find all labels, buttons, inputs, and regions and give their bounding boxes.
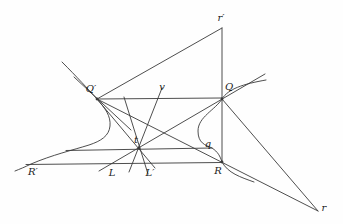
label-R: R — [213, 165, 222, 176]
figure-canvas: r′Q′QvtqR′LL′Rr — [0, 0, 343, 224]
geometry-diagram: r′Q′QvtqR′LL′Rr — [0, 0, 343, 224]
point-t — [138, 147, 141, 150]
point-Q-prime — [96, 98, 99, 101]
figure-background — [0, 0, 343, 224]
label-r-prime: r′ — [217, 12, 225, 23]
label-q: q — [205, 138, 211, 149]
label-Q-prime: Q′ — [86, 83, 97, 94]
point-R — [221, 161, 224, 164]
point-Q — [221, 98, 224, 101]
label-Q: Q — [225, 81, 233, 92]
label-L: L — [108, 167, 116, 178]
label-v: v — [159, 81, 165, 92]
label-L-prime: L′ — [145, 167, 156, 178]
label-R-prime: R′ — [27, 166, 39, 177]
